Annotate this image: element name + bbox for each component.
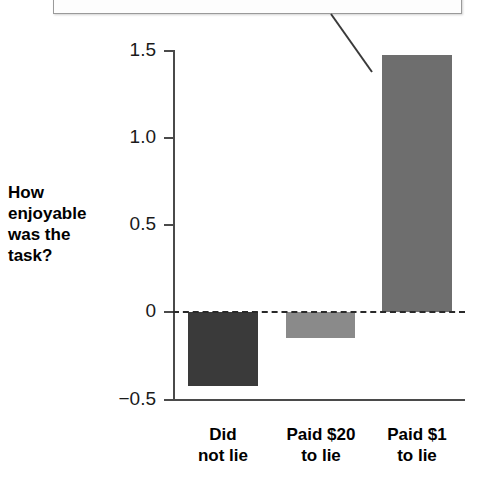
y-tick-mark-5 xyxy=(164,399,174,401)
x-axis-label-paid-20-to-lie-line-1: Paid $20 xyxy=(276,424,366,445)
zero-reference-line xyxy=(173,311,465,313)
y-tick-label-5: −0.5 xyxy=(92,388,156,410)
bar-paid-20-to-lie xyxy=(286,312,355,338)
y-tick-label-2: 1.0 xyxy=(92,126,156,148)
x-axis-label-paid-1-to-lie-line-2: to lie xyxy=(372,445,462,466)
annotation-callout-box: how pleasurable the task had been. xyxy=(53,0,462,14)
y-tick-mark-2 xyxy=(164,137,174,139)
y-tick-label-1: 1.5 xyxy=(92,39,156,61)
bar-paid-1-to-lie xyxy=(382,55,452,312)
annotation-callout-text: how pleasurable the task had been. xyxy=(64,0,453,1)
x-axis-label-did-not-lie-line-1: Did xyxy=(178,424,268,445)
bar-did-not-lie xyxy=(188,312,258,386)
x-axis-line xyxy=(173,399,465,401)
x-axis-label-did-not-lie: Did not lie xyxy=(178,424,268,466)
y-axis-title-line-4: task? xyxy=(8,245,112,266)
y-tick-mark-1 xyxy=(164,50,174,52)
x-axis-label-paid-1-to-lie-line-1: Paid $1 xyxy=(372,424,462,445)
y-tick-label-3: 0.5 xyxy=(92,213,156,235)
x-axis-label-paid-20-to-lie-line-2: to lie xyxy=(276,445,366,466)
bar-chart-figure: how pleasurable the task had been. How e… xyxy=(0,0,486,485)
y-tick-mark-3 xyxy=(164,224,174,226)
x-axis-label-did-not-lie-line-2: not lie xyxy=(178,445,268,466)
annotation-leader-line xyxy=(320,10,390,80)
x-axis-label-paid-20-to-lie: Paid $20 to lie xyxy=(276,424,366,466)
y-axis-title-line-1: How xyxy=(8,182,112,203)
x-axis-label-paid-1-to-lie: Paid $1 to lie xyxy=(372,424,462,466)
y-tick-label-4: 0 xyxy=(92,300,156,322)
